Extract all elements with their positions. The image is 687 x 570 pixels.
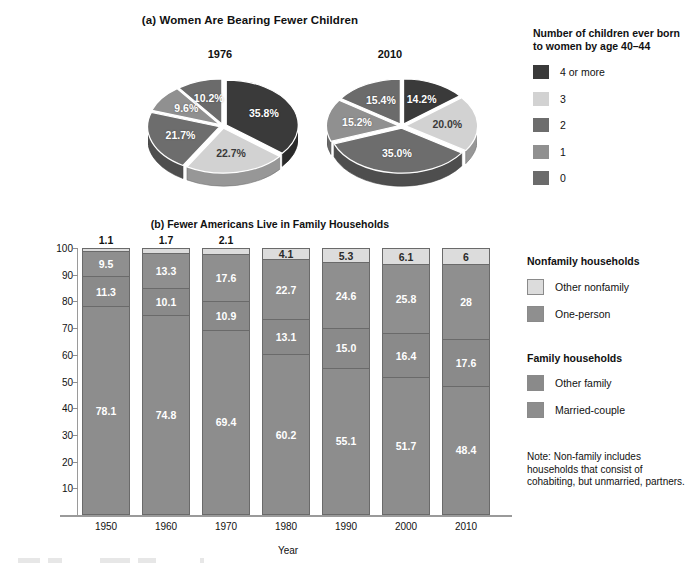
bar-segment-other-family[interactable]: 17.6 (442, 339, 490, 386)
y-tick-90: 90 (62, 269, 73, 280)
pie-chart-1976: 35.8%22.7%21.7%9.6%10.2% (148, 64, 298, 189)
stacked-bar-chart: 1.19.511.378.11.713.310.174.82.117.610.9… (78, 248, 498, 515)
bar-top-value: 1.7 (143, 234, 189, 246)
bar-segment-value: 9.5 (99, 258, 114, 270)
bar-1990[interactable]: 5.324.615.055.1 (322, 248, 370, 515)
x-tick-1970: 1970 (202, 521, 250, 532)
bar-segment-married-couple[interactable]: 60.2 (262, 354, 310, 515)
y-tick-10: 10 (62, 483, 73, 494)
x-tick-1990: 1990 (322, 521, 370, 532)
bar-segment-married-couple[interactable]: 55.1 (322, 368, 370, 515)
y-tick-40: 40 (62, 403, 73, 414)
legend-item-3[interactable]: 3 (533, 92, 683, 106)
bar-segment-other-family[interactable]: 15.0 (322, 328, 370, 368)
bar-segment-value: 13.1 (276, 331, 296, 343)
bar-2000[interactable]: 6.125.816.451.7 (382, 248, 430, 515)
bar-segment-other-family[interactable]: 10.1 (142, 288, 190, 315)
legend-number-of-children: Number of children ever born to women by… (533, 27, 683, 198)
legend-b-group2-title: Family households (527, 352, 685, 365)
bar-segment-value: 22.7 (276, 284, 296, 296)
legend-a-title: Number of children ever born to women by… (533, 27, 683, 53)
legend-item-other-nonfamily[interactable]: Other nonfamily (527, 279, 685, 295)
legend-swatch-other-family (527, 375, 544, 391)
legend-swatch-1 (533, 145, 549, 159)
y-tick-mark (73, 382, 78, 383)
legend-item-married-couple[interactable]: Married-couple (527, 402, 685, 418)
y-tick-mark (73, 301, 78, 302)
bar-segment-other-nonfamily[interactable]: 4.1 (262, 248, 310, 259)
bar-segment-one-person[interactable]: 9.5 (82, 251, 130, 276)
bar-segment-one-person[interactable]: 22.7 (262, 259, 310, 320)
bar-segment-value: 6 (463, 251, 469, 263)
x-tick-2010: 2010 (442, 521, 490, 532)
bar-1970[interactable]: 2.117.610.969.4 (202, 248, 250, 515)
bar-segment-value: 28 (460, 296, 472, 308)
bar-segment-married-couple[interactable]: 51.7 (382, 377, 430, 515)
bar-2010[interactable]: 62817.648.4 (442, 248, 490, 515)
bar-segment-married-couple[interactable]: 78.1 (82, 306, 130, 515)
bar-segment-other-nonfamily[interactable]: 6.1 (382, 248, 430, 264)
x-tick-1980: 1980 (262, 521, 310, 532)
y-tick-70: 70 (62, 323, 73, 334)
legend-item-other-family[interactable]: Other family (527, 375, 685, 391)
bar-segment-other-family[interactable]: 16.4 (382, 333, 430, 377)
legend-item-2[interactable]: 2 (533, 118, 683, 132)
x-axis-line (60, 515, 512, 517)
legend-swatch-other-nonfamily (527, 279, 544, 295)
bar-segment-other-nonfamily[interactable]: 6 (442, 248, 490, 264)
legend-swatch-2 (533, 118, 549, 132)
legend-label-one-person: One-person (555, 308, 610, 320)
bar-segment-value: 48.4 (456, 444, 476, 456)
bar-1960[interactable]: 1.713.310.174.8 (142, 248, 190, 515)
bar-segment-value: 25.8 (396, 293, 416, 305)
bar-segment-value: 11.3 (96, 286, 116, 298)
bar-segment-one-person[interactable]: 28 (442, 264, 490, 339)
bar-segment-value: 6.1 (399, 251, 414, 263)
y-tick-50: 50 (62, 376, 73, 387)
chart-note: Note: Non-family includes households tha… (527, 451, 685, 489)
legend-household-types: Nonfamily households Other nonfamily One… (527, 255, 685, 489)
pie-slice-label: 21.7% (166, 129, 196, 141)
bar-segment-other-family[interactable]: 13.1 (262, 319, 310, 354)
bar-segment-other-family[interactable]: 10.9 (202, 301, 250, 330)
bar-segment-one-person[interactable]: 24.6 (322, 262, 370, 328)
bar-segment-married-couple[interactable]: 48.4 (442, 386, 490, 515)
bar-1980[interactable]: 4.122.713.160.2 (262, 248, 310, 515)
legend-swatch-married-couple (527, 402, 544, 418)
y-tick-20: 20 (62, 456, 73, 467)
legend-swatch-4-or-more (533, 65, 549, 79)
bar-1950[interactable]: 1.19.511.378.1 (82, 248, 130, 515)
bar-segment-married-couple[interactable]: 69.4 (202, 330, 250, 515)
pie-slice-label: 10.2% (194, 92, 224, 104)
pie-slice-label: 35.0% (382, 147, 412, 159)
y-tick-mark (73, 462, 78, 463)
x-tick-1960: 1960 (142, 521, 190, 532)
bar-segment-value: 15.0 (336, 342, 356, 354)
bar-segment-other-family[interactable]: 11.3 (82, 276, 130, 306)
pie-chart-2010: 14.2%20.0%35.0%15.2%15.4% (327, 64, 477, 189)
legend-item-1[interactable]: 1 (533, 145, 683, 159)
legend-item-0[interactable]: 0 (533, 171, 683, 185)
y-tick-mark (73, 275, 78, 276)
legend-label-2: 2 (560, 119, 566, 131)
bar-segment-one-person[interactable]: 25.8 (382, 264, 430, 333)
bar-segment-value: 17.6 (216, 272, 236, 284)
bar-segment-married-couple[interactable]: 74.8 (142, 315, 190, 515)
panel-a-title: (a) Women Are Bearing Fewer Children (0, 14, 500, 26)
legend-b-group1-title: Nonfamily households (527, 255, 685, 268)
legend-label-0: 0 (560, 172, 566, 184)
bar-segment-value: 24.6 (336, 290, 356, 302)
bar-segment-one-person[interactable]: 17.6 (202, 254, 250, 301)
x-axis-label: Year (78, 545, 498, 556)
x-tick-2000: 2000 (382, 521, 430, 532)
bar-segment-other-nonfamily[interactable]: 5.3 (322, 248, 370, 262)
bar-segment-value: 55.1 (336, 435, 356, 447)
y-tick-mark (73, 488, 78, 489)
bar-segment-one-person[interactable]: 13.3 (142, 253, 190, 289)
legend-label-other-family: Other family (555, 377, 612, 389)
y-tick-mark (73, 435, 78, 436)
bar-segment-value: 60.2 (276, 429, 296, 441)
legend-item-4-or-more[interactable]: 4 or more (533, 65, 683, 79)
legend-swatch-3 (533, 92, 549, 106)
legend-item-one-person[interactable]: One-person (527, 306, 685, 322)
